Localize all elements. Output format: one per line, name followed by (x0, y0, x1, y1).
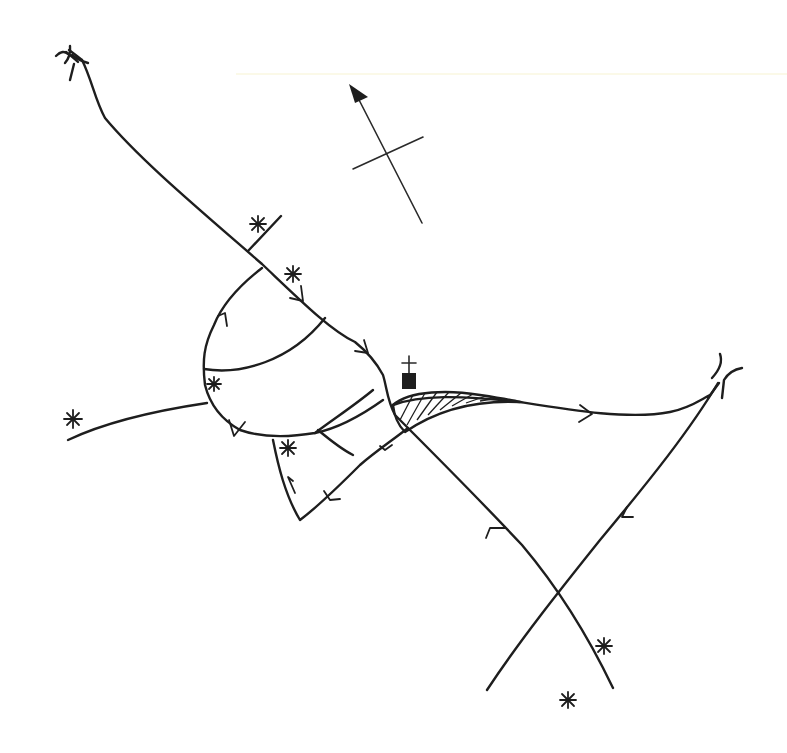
western-spur-road (68, 403, 207, 440)
loop-road-inner-1 (204, 318, 325, 370)
sketch-map (0, 0, 787, 753)
loop-spur-south (318, 430, 353, 455)
asterisk-icon (280, 440, 296, 456)
asterisk-icon (207, 377, 221, 391)
main-diagonal-road (82, 60, 613, 688)
asterisk-icon (560, 692, 576, 708)
east-road-to-bridge (393, 395, 710, 415)
asterisk-icon (250, 216, 266, 232)
short-side-spur-north (248, 216, 281, 251)
north-arrow-icon (349, 84, 423, 223)
church-icon (402, 356, 416, 389)
asterisk-icon (596, 638, 612, 654)
direction-arrows (218, 286, 633, 538)
asterisk-icon (64, 410, 82, 428)
asterisk-icon (285, 266, 301, 282)
